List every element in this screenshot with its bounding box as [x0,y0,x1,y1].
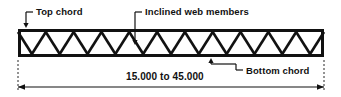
span-dimension-text: 15.000 to 45.000 [126,72,204,82]
top-chord-leader-arrow-icon [23,23,28,28]
inclined-web-member [101,32,115,54]
inclined-web-member [32,32,46,54]
inclined-web-member [88,32,102,54]
inclined-web-member [143,32,157,54]
inclined-web-member [241,32,255,54]
inclined-web-member [296,32,310,54]
label-inclined-web-members: Inclined web members [145,7,249,17]
inclined-web-member [157,32,171,54]
inclined-web-member [74,32,88,54]
inclined-web-member [227,32,241,54]
label-top-chord: Top chord [36,7,83,17]
inclined-web-member [115,32,129,54]
inclined-web-member [199,32,213,54]
inclined-web-member [171,32,185,54]
inclined-web-member [46,32,60,54]
inclined-web-member [129,32,143,54]
dimension-arrow-right-icon [317,84,324,89]
inclined-web-member [60,32,74,54]
label-bottom-chord: Bottom chord [246,66,309,76]
inclined-web-member [268,32,282,54]
bottom-chord-leader-arrow-icon [208,58,213,63]
inclined-web-member [254,32,268,54]
dimension-arrow-left-icon [18,84,25,89]
truss-diagram-figure: Top chord Inclined web members Bottom ch… [0,0,341,97]
inclined-web-member [185,32,199,54]
inclined-web-member [282,32,296,54]
inclined-web-member [213,32,227,54]
